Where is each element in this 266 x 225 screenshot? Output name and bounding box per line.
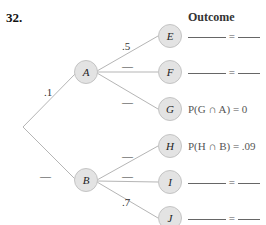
branch-prob-b-j: .7 xyxy=(122,196,130,208)
outcome-h: P(H ∩ B) = .09 xyxy=(188,140,256,152)
branch-prob-root-b: — xyxy=(40,170,51,182)
blank-event[interactable] xyxy=(188,183,226,184)
node-a: A xyxy=(74,60,98,84)
outcome-i: = xyxy=(188,176,260,188)
node-j: J xyxy=(158,206,182,225)
problem-number: 32. xyxy=(6,10,22,26)
node-i: I xyxy=(158,170,182,194)
blank-event[interactable] xyxy=(188,219,226,220)
outcome-f: = xyxy=(188,66,260,78)
node-f: F xyxy=(158,60,182,84)
outcome-j: = xyxy=(188,212,260,224)
outcome-g: P(G ∩ A) = 0 xyxy=(188,103,247,115)
branch-prob-a-e: .5 xyxy=(122,40,130,52)
blank-prob[interactable] xyxy=(238,73,260,74)
blank-event[interactable] xyxy=(188,37,226,38)
node-e: E xyxy=(158,24,182,48)
blank-prob[interactable] xyxy=(238,37,260,38)
node-h: H xyxy=(158,134,182,158)
outcome-header: Outcome xyxy=(188,10,235,25)
node-b: B xyxy=(74,168,98,192)
blank-event[interactable] xyxy=(188,73,226,74)
branch-prob-b-i: — xyxy=(122,170,133,182)
node-g: G xyxy=(158,97,182,121)
outcome-e: = xyxy=(188,30,260,42)
blank-prob[interactable] xyxy=(238,219,260,220)
branch-prob-root-a: .1 xyxy=(44,86,52,98)
branch-prob-b-h: — xyxy=(122,150,133,162)
branch-prob-a-g: — xyxy=(122,96,133,108)
blank-prob[interactable] xyxy=(238,183,260,184)
branch-prob-a-f: — xyxy=(122,60,133,72)
